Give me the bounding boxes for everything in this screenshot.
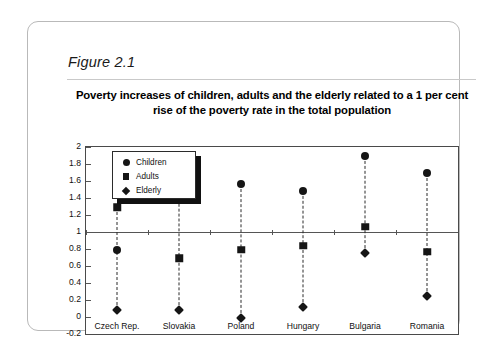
x-axis-category-label: Hungary: [287, 321, 319, 331]
data-point-elderly: [360, 248, 370, 258]
y-axis-tick-mark: [86, 147, 91, 148]
x-axis-tick-mark: [396, 230, 397, 235]
y-axis-tick-label: 0.8: [69, 243, 81, 253]
data-point-adults: [175, 255, 183, 263]
y-axis-tick-label: 0.4: [69, 277, 81, 287]
figure-container: Figure 2.1 Poverty increases of children…: [27, 21, 460, 331]
y-axis-tick-label: 1.6: [69, 175, 81, 185]
data-point-children: [237, 180, 245, 188]
data-point-children: [361, 152, 369, 160]
circle-marker-glyph: [123, 159, 130, 166]
y-axis-tick-mark: [86, 198, 91, 199]
data-stem: [179, 189, 180, 311]
data-stem: [427, 173, 428, 296]
chart-legend: ChildrenAdultsElderly: [112, 151, 196, 199]
figure-divider: [67, 79, 476, 80]
data-point-adults: [237, 246, 245, 254]
data-stem: [117, 207, 118, 310]
plot-frame: Czech Rep.SlovakiaPolandHungaryBulgariaR…: [85, 146, 459, 335]
data-point-adults: [113, 204, 121, 212]
legend-item-label: Elderly: [136, 186, 161, 195]
y-axis-tick-label: -0.2: [66, 328, 81, 338]
y-axis-tick-label: 1.8: [69, 158, 81, 168]
x-axis-tick-mark: [272, 230, 273, 235]
y-axis-tick-mark: [86, 283, 91, 284]
figure-label: Figure 2.1: [68, 54, 135, 70]
y-axis-tick-label: 1.4: [69, 192, 81, 202]
data-point-elderly: [298, 302, 308, 312]
square-marker: [119, 173, 133, 180]
data-point-elderly: [174, 305, 184, 315]
y-axis-tick-mark: [86, 266, 91, 267]
y-axis-tick-label: 1: [76, 226, 81, 236]
data-point-children: [113, 246, 121, 254]
data-point-adults: [299, 242, 307, 250]
data-point-children: [423, 169, 431, 177]
legend-item: Adults: [119, 170, 190, 183]
circle-marker: [119, 159, 133, 166]
chart-title: Poverty increases of children, adults an…: [68, 88, 476, 118]
y-axis-tick-label: 0.6: [69, 260, 81, 270]
legend-item: Elderly: [119, 184, 190, 197]
y-axis-tick-label: 1.2: [69, 209, 81, 219]
y-axis-tick-mark: [86, 164, 91, 165]
data-point-children: [299, 187, 307, 195]
data-point-elderly: [112, 305, 122, 315]
y-axis-tick-mark: [86, 181, 91, 182]
x-axis-category-label: Romania: [410, 321, 444, 331]
y-axis-tick-label: 0: [76, 311, 81, 321]
x-axis-tick-mark: [334, 230, 335, 235]
x-axis-tick-mark: [86, 230, 87, 235]
legend-item-label: Children: [136, 158, 167, 167]
y-axis-tick-mark: [86, 249, 91, 250]
data-point-adults: [361, 223, 369, 231]
x-axis-category-label: Slovakia: [163, 321, 195, 331]
y-axis-tick-mark: [86, 215, 91, 216]
diamond-marker-glyph: [122, 186, 130, 194]
data-stem: [365, 156, 366, 254]
x-axis-category-label: Bulgaria: [349, 321, 381, 331]
legend-item: Children: [119, 156, 190, 169]
y-axis-tick-label: 2: [76, 141, 81, 151]
x-axis-category-label: Czech Rep.: [95, 321, 140, 331]
y-axis-tick-mark: [86, 300, 91, 301]
data-point-elderly: [422, 291, 432, 301]
diamond-marker: [119, 188, 133, 194]
y-axis-tick-mark: [86, 317, 91, 318]
data-point-adults: [423, 248, 431, 256]
x-axis-tick-mark: [148, 230, 149, 235]
square-marker-glyph: [123, 173, 130, 180]
y-axis-tick-label: 0.2: [69, 294, 81, 304]
legend-item-label: Adults: [136, 172, 159, 181]
x-axis-tick-mark: [210, 230, 211, 235]
